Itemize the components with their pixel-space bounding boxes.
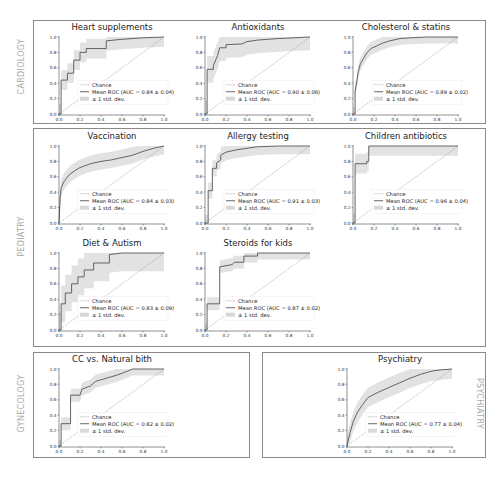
legend-std: ± 1 std. dev. xyxy=(92,312,125,318)
y-tick-label: 0.2 xyxy=(338,428,345,433)
y-tick-label: 1.0 xyxy=(50,251,57,256)
y-tick-label: 1.0 xyxy=(50,35,57,40)
y-tick-label: 0.2 xyxy=(50,312,57,317)
y-tick-label: 0.4 xyxy=(344,190,351,195)
y-tick-label: 0.6 xyxy=(338,397,345,402)
legend-chance: Chance xyxy=(386,82,405,88)
x-tick-label: 0.6 xyxy=(119,449,126,454)
y-tick-label: 1.0 xyxy=(196,35,203,40)
group-label-gynecology: GYNECOLOGY xyxy=(17,374,26,434)
y-tick-label: 0.2 xyxy=(344,205,351,210)
y-tick-label: 0.0 xyxy=(50,221,57,226)
x-tick-label: 0.4 xyxy=(244,117,251,122)
x-tick-label: 1.0 xyxy=(161,333,168,338)
legend-mean-roc: Mean ROC (AUC = 0.90 ± 0.06) xyxy=(238,89,320,95)
x-tick-label: 0.2 xyxy=(371,117,378,122)
x-tick-label: 0.6 xyxy=(265,117,272,122)
x-tick-label: 1.0 xyxy=(307,226,314,231)
x-tick-label: 0.8 xyxy=(286,117,293,122)
x-tick-label: 0.0 xyxy=(202,226,209,231)
y-tick-label: 0.8 xyxy=(196,266,203,271)
y-tick-label: 0.2 xyxy=(196,312,203,317)
x-tick-label: 0.0 xyxy=(56,226,63,231)
legend-mean-roc: Mean ROC (AUC = 0.96 ± 0.04) xyxy=(386,198,468,204)
y-tick-label: 0.6 xyxy=(50,65,57,70)
x-tick-label: 0.4 xyxy=(98,117,105,122)
y-tick-label: 1.0 xyxy=(196,144,203,149)
x-tick-label: 1.0 xyxy=(455,117,462,122)
x-tick-label: 0.8 xyxy=(428,449,435,454)
y-tick-label: 0.2 xyxy=(50,96,57,101)
y-tick-label: 0.4 xyxy=(338,413,345,418)
y-tick-label: 0.4 xyxy=(196,190,203,195)
legend-mean-roc: Mean ROC (AUC = 0.82 ± 0.02) xyxy=(92,421,174,427)
legend-std: ± 1 std. dev. xyxy=(386,205,419,211)
y-tick-label: 0.0 xyxy=(196,112,203,117)
roc-panel: Children antibiotics0.00.00.20.20.40.40.… xyxy=(336,131,476,237)
x-tick-label: 0.2 xyxy=(223,333,230,338)
x-tick-label: 1.0 xyxy=(161,117,168,122)
x-tick-label: 0.0 xyxy=(350,117,357,122)
y-tick-label: 1.0 xyxy=(344,35,351,40)
x-tick-label: 0.4 xyxy=(392,117,399,122)
x-tick-label: 0.8 xyxy=(286,333,293,338)
legend-std: ± 1 std. dev. xyxy=(238,96,271,102)
x-tick-label: 0.6 xyxy=(119,226,126,231)
roc-plot: 0.00.00.20.20.40.40.60.60.80.81.01.0Chan… xyxy=(336,143,476,237)
y-tick-label: 0.8 xyxy=(196,50,203,55)
x-tick-label: 0.6 xyxy=(119,333,126,338)
y-tick-label: 0.8 xyxy=(50,50,57,55)
x-tick-label: 0.0 xyxy=(56,333,63,338)
y-tick-label: 0.6 xyxy=(196,281,203,286)
y-tick-label: 1.0 xyxy=(196,251,203,256)
y-tick-label: 0.6 xyxy=(344,174,351,179)
panel-title: Heart supplements xyxy=(42,22,182,32)
panel-title: CC vs. Natural bith xyxy=(42,354,182,364)
legend-chance: Chance xyxy=(380,414,399,420)
roc-plot: 0.00.00.20.20.40.40.60.60.80.81.01.0Chan… xyxy=(188,34,328,128)
legend-chance: Chance xyxy=(238,191,257,197)
x-tick-label: 0.2 xyxy=(77,449,84,454)
y-tick-label: 0.4 xyxy=(196,81,203,86)
y-tick-label: 0.8 xyxy=(344,50,351,55)
x-tick-label: 0.0 xyxy=(202,117,209,122)
legend-mean-roc: Mean ROC (AUC = 0.91 ± 0.03) xyxy=(238,198,320,204)
y-tick-label: 0.8 xyxy=(338,382,345,387)
roc-panel: Steroids for kids0.00.00.20.20.40.40.60.… xyxy=(188,238,328,344)
x-tick-label: 0.0 xyxy=(202,333,209,338)
legend-chance: Chance xyxy=(92,191,111,197)
x-tick-label: 0.2 xyxy=(371,226,378,231)
panel-title: Antioxidants xyxy=(188,22,328,32)
y-tick-label: 0.4 xyxy=(50,297,57,302)
y-tick-label: 0.6 xyxy=(196,65,203,70)
x-tick-label: 0.8 xyxy=(140,226,147,231)
y-tick-label: 1.0 xyxy=(50,144,57,149)
legend-chance: Chance xyxy=(92,82,111,88)
x-tick-label: 0.6 xyxy=(265,333,272,338)
legend-mean-roc: Mean ROC (AUC = 0.83 ± 0.09) xyxy=(92,305,174,311)
y-tick-label: 0.2 xyxy=(50,205,57,210)
roc-plot: 0.00.00.20.20.40.40.60.60.80.81.01.0Chan… xyxy=(336,34,476,128)
y-tick-label: 0.2 xyxy=(344,96,351,101)
x-tick-label: 0.4 xyxy=(98,449,105,454)
y-tick-label: 0.8 xyxy=(50,266,57,271)
x-tick-label: 0.4 xyxy=(392,226,399,231)
legend-mean-roc: Mean ROC (AUC = 0.84 ± 0.03) xyxy=(92,198,174,204)
legend-chance: Chance xyxy=(92,298,111,304)
y-tick-label: 0.0 xyxy=(196,328,203,333)
legend-std: ± 1 std. dev. xyxy=(92,205,125,211)
x-tick-label: 0.0 xyxy=(56,449,63,454)
x-tick-label: 0.8 xyxy=(286,226,293,231)
x-tick-label: 1.0 xyxy=(449,449,456,454)
x-tick-label: 1.0 xyxy=(455,226,462,231)
legend-chance: Chance xyxy=(238,298,257,304)
roc-plot: 0.00.00.20.20.40.40.60.60.80.81.01.0Chan… xyxy=(330,366,470,460)
x-tick-label: 0.4 xyxy=(244,226,251,231)
y-tick-label: 0.0 xyxy=(344,112,351,117)
y-tick-label: 0.0 xyxy=(344,221,351,226)
x-tick-label: 1.0 xyxy=(161,449,168,454)
x-tick-label: 0.4 xyxy=(98,333,105,338)
y-tick-label: 0.6 xyxy=(344,65,351,70)
y-tick-label: 0.4 xyxy=(196,297,203,302)
roc-plot: 0.00.00.20.20.40.40.60.60.80.81.01.0Chan… xyxy=(42,143,182,237)
